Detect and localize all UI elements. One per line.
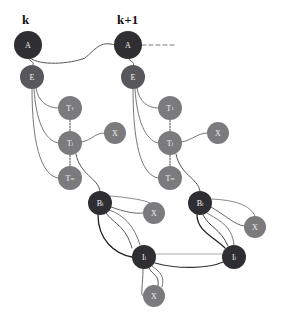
edge-bj-ij-k-b: [106, 213, 132, 248]
edge-tj-x-k1: [182, 133, 207, 142]
node-tm-k1: Tm: [158, 166, 182, 190]
edge-ij-x-k-b: [149, 268, 158, 286]
edge-a-a: [30, 44, 115, 64]
edge-bj-x-k1-a: [211, 199, 255, 216]
node-label: X: [215, 129, 221, 138]
node-label: X: [252, 223, 258, 232]
node-label: E: [30, 73, 35, 82]
node-t1-k: T1: [58, 96, 82, 120]
edge-e-tj-k1: [135, 89, 158, 143]
node-ij-k1: Ij: [222, 245, 246, 269]
node-sup: m: [71, 176, 75, 181]
node-ij-k: Ij: [132, 245, 156, 269]
graph-diagram: [0, 0, 283, 327]
node-sup: j: [102, 201, 103, 206]
node-x2-k: X: [143, 202, 165, 224]
node-sup: j: [172, 141, 173, 146]
edge-e-t1-k: [36, 88, 58, 108]
node-sup: j: [72, 141, 73, 146]
edge-bj-x-k1-b: [211, 207, 244, 226]
node-sup: 1: [71, 106, 74, 111]
node-label: A: [125, 41, 131, 50]
edge-e-t1-k1: [137, 88, 158, 108]
node-label: E: [131, 73, 136, 82]
node-tj-k1: Tj: [158, 131, 182, 155]
node-bj-k: Bj: [88, 191, 112, 215]
node-e-k: E: [20, 65, 44, 89]
node-label: X: [151, 209, 157, 218]
edge-bj-ij-k-c: [109, 210, 140, 245]
node-x1-k1: X: [207, 122, 229, 144]
node-tm-k: Tm: [58, 166, 82, 190]
edge-bj-ij-k1-a: [197, 215, 225, 248]
edge-tj-x-k: [82, 133, 104, 142]
node-sup: j: [202, 201, 203, 206]
node-e-k1: E: [121, 65, 145, 89]
node-sup: j: [145, 255, 146, 260]
edge-ij-x-k-c: [152, 266, 163, 287]
node-sup: j: [235, 255, 236, 260]
node-tj-k: Tj: [58, 131, 82, 155]
node-sup: 1: [171, 106, 174, 111]
column-label-k: k: [22, 12, 29, 28]
node-t1-k1: T1: [158, 96, 182, 120]
edge-ij-ij-b: [155, 262, 223, 267]
node-a-k1: A: [114, 31, 142, 59]
node-x2-k1: X: [244, 216, 266, 238]
node-label: A: [25, 41, 31, 50]
node-sup: m: [171, 176, 175, 181]
node-x1-k: X: [104, 122, 126, 144]
edge-bj-x-k-a: [110, 196, 150, 203]
column-label-k-plus-1: k+1: [117, 12, 138, 28]
node-label: X: [151, 292, 157, 301]
edge-e-tj-k: [34, 89, 58, 143]
node-label: X: [112, 129, 118, 138]
node-a-k: A: [14, 31, 42, 59]
edge-bj-ij-k1-c: [207, 213, 234, 245]
node-x3-k: X: [143, 285, 165, 307]
node-bj-k1: Bj: [188, 191, 212, 215]
edge-bj-ij-k1-b: [203, 215, 228, 246]
